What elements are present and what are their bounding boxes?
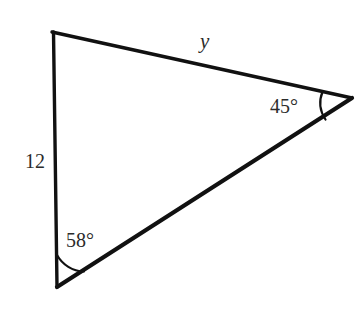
geometry-figure: y 12 58° 45° xyxy=(0,0,362,313)
angle-arc-58-icon xyxy=(57,255,84,272)
angle-label-58: 58° xyxy=(66,230,94,250)
triangle-drawing xyxy=(0,0,362,313)
triangle-side-bottom xyxy=(57,98,352,287)
triangle-side-left xyxy=(54,32,58,287)
side-label-12: 12 xyxy=(25,151,45,171)
side-label-y: y xyxy=(200,31,209,52)
angle-label-45: 45° xyxy=(270,96,298,116)
